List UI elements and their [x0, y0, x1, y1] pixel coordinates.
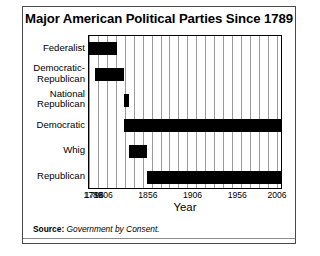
bar-row: [89, 171, 281, 184]
bar-row: [89, 68, 281, 81]
y-axis-labels: FederalistDemocratic- RepublicanNational…: [23, 35, 85, 189]
y-axis-label: Democratic: [23, 120, 85, 130]
bar: [124, 94, 129, 107]
x-axis-tick-label: 2006: [267, 190, 286, 200]
chart-figure: Major American Political Parties Since 1…: [22, 6, 296, 244]
chart-title: Major American Political Parties Since 1…: [23, 11, 295, 26]
bar-row: [89, 42, 281, 55]
y-axis-label: National Republican: [23, 89, 85, 110]
y-axis-label: Republican: [23, 171, 85, 181]
y-axis-label: Federalist: [23, 43, 85, 53]
bar: [95, 68, 124, 81]
bar: [124, 119, 282, 132]
bar: [129, 145, 147, 158]
bar-row: [89, 145, 281, 158]
bar: [89, 42, 117, 55]
x-axis-title: Year: [88, 201, 282, 213]
bar-series: [89, 36, 281, 188]
chart-body: FederalistDemocratic- RepublicanNational…: [23, 33, 297, 211]
x-axis-tick-label: 1906: [183, 190, 202, 200]
x-axis-tick-label: 1956: [228, 190, 247, 200]
source-value: Government by Consent.: [67, 224, 160, 234]
bar-row: [89, 119, 281, 132]
x-axis-tick-label: 1806: [94, 190, 113, 200]
source-label: Source:: [33, 224, 64, 234]
y-axis-label: Whig: [23, 145, 85, 155]
bar: [147, 171, 282, 184]
bar-row: [89, 94, 281, 107]
plot-area: [88, 35, 282, 189]
x-axis-tick-label: 1856: [138, 190, 157, 200]
source-note: Source: Government by Consent.: [33, 224, 160, 234]
source-divider: [23, 238, 295, 239]
y-axis-label: Democratic- Republican: [23, 63, 85, 84]
